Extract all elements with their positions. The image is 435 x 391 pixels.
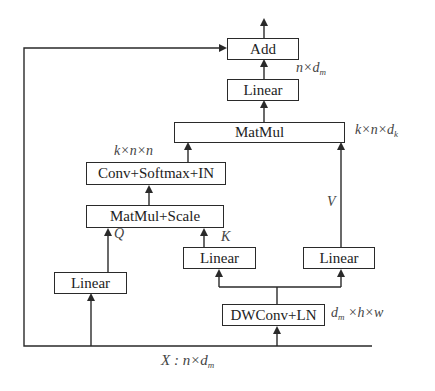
shape-post: ×h×w (345, 305, 384, 320)
shape-main: k×n×d (355, 122, 394, 137)
skip-connection (24, 48, 372, 346)
shape-pre: d (331, 305, 338, 320)
attention-shape-label: k×n×n (114, 143, 153, 159)
linear-output-box: Linear (227, 79, 299, 101)
q-label: Q (114, 226, 124, 242)
linear-output-shape-label: n×dm (296, 60, 326, 77)
linear-q-box: Linear (54, 272, 127, 294)
add-box: Add (227, 38, 299, 60)
dwconv-shape-label: dm ×h×w (331, 305, 383, 322)
k-label: K (221, 229, 230, 245)
dwconv-ln-box: DWConv+LN (222, 304, 325, 326)
matmul-shape-label: k×n×dk (355, 122, 398, 139)
input-main: X : n×d (161, 352, 208, 368)
matmul-box: MatMul (174, 122, 345, 143)
linear-k-box: Linear (183, 247, 256, 269)
shape-main: n×d (296, 60, 319, 75)
shape-sub: m (319, 67, 326, 77)
matmul-scale-box: MatMul+Scale (86, 205, 224, 228)
shape-sub: k (394, 129, 398, 139)
input-sub: m (208, 360, 215, 370)
conv-softmax-in-box: Conv+Softmax+IN (86, 162, 226, 185)
connector-lines (0, 0, 435, 391)
v-label: V (327, 194, 336, 210)
input-x-label: X : n×dm (161, 352, 214, 370)
linear-v-box: Linear (303, 247, 375, 269)
attention-block-diagram: Add Linear MatMul Conv+Softmax+IN MatMul… (0, 0, 435, 391)
